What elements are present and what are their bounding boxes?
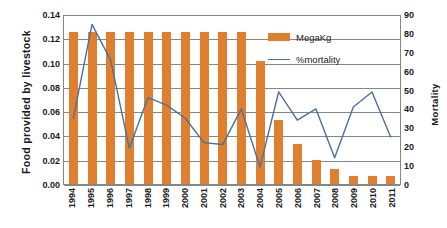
y-axis-left-tick-label: 0.04: [42, 131, 60, 141]
y-axis-right-tick-label: 30: [404, 123, 414, 133]
x-axis-tick-slot: 1995: [82, 186, 101, 228]
x-axis-tick-label-1994: 1994: [67, 188, 77, 208]
y-axis-left-tick-label: 0.08: [42, 83, 60, 93]
y-axis-left-tick-label: 0.02: [42, 156, 60, 166]
x-axis-tick-slot: 2011: [382, 186, 401, 228]
y-axis-right-tick-label: 80: [404, 29, 414, 39]
y-axis-right-tick-label: 40: [404, 104, 414, 114]
chart-legend: MegaKg %mortality: [268, 26, 388, 70]
y-axis-left-tick-label: 0.10: [42, 59, 60, 69]
x-axis-tick-slot: 1998: [138, 186, 157, 228]
chart-container: Food provided by livestock 0.000.020.040…: [0, 0, 447, 228]
legend-line-swatch-icon: [268, 59, 290, 60]
x-axis-tick-label-2005: 2005: [274, 188, 284, 208]
legend-label-mortality: %mortality: [296, 54, 340, 65]
x-axis-tick-slot: 2001: [194, 186, 213, 228]
x-axis-tick-label-2009: 2009: [349, 188, 359, 208]
x-axis-tick-slot: 2000: [176, 186, 195, 228]
x-axis-tick-slot: 2003: [232, 186, 251, 228]
y-axis-left-tick-label: 0.12: [42, 34, 60, 44]
y-axis-right-tick-label: 90: [404, 10, 414, 20]
y-axis-right-tick-label: 20: [404, 142, 414, 152]
x-axis-tick-slot: 2005: [270, 186, 289, 228]
x-axis-tick-slot: 2008: [326, 186, 345, 228]
x-axis-tick-label-2000: 2000: [180, 188, 190, 208]
x-axis-tick-slot: 2002: [213, 186, 232, 228]
x-axis-tick-label-1995: 1995: [86, 188, 96, 208]
x-axis-labels: 1994199519961997199819992000200120022003…: [63, 186, 401, 228]
y-axis-right-tick-label: 60: [404, 67, 414, 77]
y-axis-right-tick-label: 70: [404, 48, 414, 58]
x-axis-tick-label-1999: 1999: [161, 188, 171, 208]
x-axis-tick-slot: 2006: [288, 186, 307, 228]
y-axis-right-tick-label: 10: [404, 161, 414, 171]
x-axis-tick-label-1996: 1996: [105, 188, 115, 208]
y-axis-right-tick-label: 50: [404, 86, 414, 96]
y-axis-left-ticks: 0.000.020.040.060.080.100.120.14: [0, 0, 60, 228]
x-axis-tick-slot: 2010: [364, 186, 383, 228]
x-axis-tick-label-2007: 2007: [312, 188, 322, 208]
x-axis-tick-label-1998: 1998: [143, 188, 153, 208]
y-axis-right-tick-label: 0: [404, 180, 409, 190]
x-axis-tick-slot: 1994: [63, 186, 82, 228]
x-axis-tick-slot: 1996: [101, 186, 120, 228]
x-axis-tick-label-1997: 1997: [124, 188, 134, 208]
y-axis-right-title: Mortality: [429, 65, 440, 145]
y-axis-left-tick-label: 0.14: [42, 10, 60, 20]
legend-bar-swatch-icon: [268, 33, 290, 41]
legend-item-mortality: %mortality: [268, 48, 388, 70]
legend-item-megakg: MegaKg: [268, 26, 388, 48]
legend-label-megakg: MegaKg: [296, 32, 331, 43]
x-axis-tick-label-2006: 2006: [293, 188, 303, 208]
x-axis-tick-label-2008: 2008: [330, 188, 340, 208]
x-axis-tick-slot: 1999: [157, 186, 176, 228]
x-axis-tick-label-2004: 2004: [255, 188, 265, 208]
x-axis-tick-label-2002: 2002: [218, 188, 228, 208]
x-axis-tick-label-2011: 2011: [387, 188, 397, 208]
x-axis-tick-label-2001: 2001: [199, 188, 209, 208]
y-axis-left-tick-label: 0.06: [42, 107, 60, 117]
x-axis-tick-slot: 2007: [307, 186, 326, 228]
y-axis-left-tick-label: 0.00: [42, 180, 60, 190]
x-axis-tick-slot: 1997: [119, 186, 138, 228]
x-axis-tick-label-2010: 2010: [368, 188, 378, 208]
x-axis-tick-slot: 2004: [251, 186, 270, 228]
x-axis-tick-label-2003: 2003: [236, 188, 246, 208]
x-axis-tick-slot: 2009: [345, 186, 364, 228]
